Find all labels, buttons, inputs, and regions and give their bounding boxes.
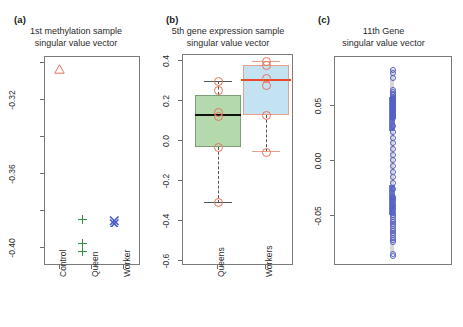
workers-box — [243, 65, 289, 115]
queens-point — [214, 198, 223, 207]
workers-point — [262, 111, 271, 120]
strip-point — [390, 186, 396, 192]
panel-b-ylabel-0: 0.4 — [161, 43, 171, 79]
panel-b-ylabel-5: -0.6 — [161, 243, 171, 279]
strip-point — [390, 239, 396, 245]
panel-a-xlabel-queen: Queen — [90, 251, 100, 277]
panel-c-letter: (c) — [318, 14, 330, 25]
panel-b-ylabel-4: -0.4 — [161, 203, 171, 239]
panel-b-xlabel-workers: Workers — [264, 246, 274, 278]
figure-canvas: (a) 1st methylation sample singular valu… — [0, 0, 463, 327]
strip-point — [390, 253, 396, 259]
panel-a-title-line1: 1st methylation sample — [0, 26, 152, 38]
panel-a: (a) 1st methylation sample singular valu… — [0, 0, 152, 327]
panel-c-ylabel-0: 0.05 — [313, 88, 323, 124]
queens-lower-whisker — [218, 147, 219, 203]
panel-b-xlabel-queens: Queens — [216, 247, 226, 277]
panel-a-plot-area — [44, 56, 140, 265]
panel-a-title: 1st methylation sample singular value ve… — [0, 26, 152, 49]
panel-a-title-line2: singular value vector — [0, 38, 152, 50]
queens-point — [214, 143, 223, 152]
queens-point — [214, 112, 223, 121]
workers-point — [262, 61, 271, 70]
panel-a-xlabel-control: Control — [58, 250, 68, 277]
panel-b-ylabel-1: 0.2 — [161, 83, 171, 119]
panel-b-ylabel-2: 0.0 — [161, 123, 171, 159]
panel-c-ylabel-2: -0.05 — [313, 198, 323, 234]
workers-point — [262, 81, 271, 90]
panel-a-ylabel-1: -0.36 — [7, 152, 17, 196]
panel-b-plot-area — [182, 54, 293, 265]
queens-point — [214, 77, 223, 86]
queens-box — [195, 95, 241, 147]
strip-point — [390, 75, 396, 81]
workers-point — [262, 148, 271, 157]
panel-c: (c) 11th Gene singular value vector 0.05… — [304, 0, 463, 327]
panel-c-title: 11th Gene singular value vector — [304, 26, 463, 49]
queens-point — [214, 86, 223, 95]
marker-worker-cross — [109, 213, 119, 224]
panel-a-ylabel-2: -0.40 — [7, 226, 17, 270]
workers-lower-whisker — [266, 115, 267, 152]
panel-b-title-line2: singular value vector — [152, 38, 304, 50]
panel-c-ylabel-1: 0.00 — [313, 143, 323, 179]
panel-c-title-line1: 11th Gene — [304, 26, 463, 38]
panel-c-plot-area — [334, 56, 452, 265]
marker-control-triangle — [54, 60, 63, 68]
panel-a-xlabel-worker: Worker — [122, 250, 132, 277]
panel-b-ylabel-3: -0.2 — [161, 163, 171, 199]
panel-a-ylabel-0: -0.32 — [7, 78, 17, 122]
panel-b: (b) 5th gene expression sample singular … — [152, 0, 304, 327]
panel-b-letter: (b) — [166, 14, 178, 25]
panel-c-title-line2: singular value vector — [304, 38, 463, 50]
panel-b-title-line1: 5th gene expression sample — [152, 26, 304, 38]
strip-point — [390, 115, 396, 121]
panel-a-letter: (a) — [14, 14, 26, 25]
panel-b-title: 5th gene expression sample singular valu… — [152, 26, 304, 49]
strip-point — [390, 146, 396, 152]
strip-point — [390, 129, 396, 135]
